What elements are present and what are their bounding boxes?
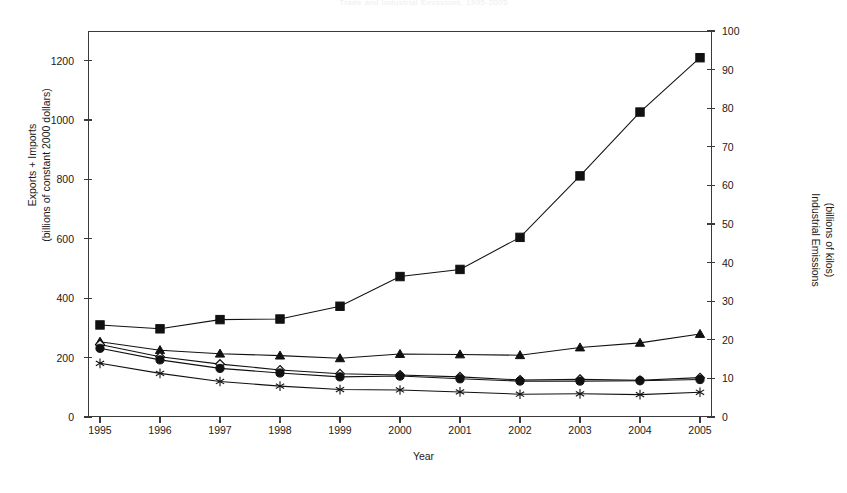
y-axis-left-title-line1: Exports + Imports (26, 0, 38, 330)
y-axis-right-tick-label: 90 (722, 64, 734, 76)
data-point-filled-circle (336, 373, 344, 381)
data-point-filled-circle (96, 344, 104, 352)
series-0 (96, 54, 704, 333)
y-axis-right-tick-label: 40 (722, 257, 734, 269)
y-axis-left-tick-label: 600 (0, 233, 74, 245)
data-point-filled-square (96, 321, 104, 329)
data-point-filled-triangle (455, 350, 464, 358)
data-point-filled-triangle (695, 329, 704, 337)
y-axis-left-tick-label: 1200 (0, 55, 74, 67)
data-point-filled-square (276, 315, 284, 323)
data-point-filled-circle (216, 364, 224, 372)
y-axis-right-tick-label: 50 (722, 218, 734, 230)
x-axis-tick-label: 1996 (148, 424, 171, 436)
chart-figure: Trade and Industrial Emissions, 1995-200… (0, 0, 847, 493)
y-axis-left-tick-label: 200 (0, 352, 74, 364)
y-axis-right-title-line1: Industrial Emissions (810, 140, 822, 340)
y-axis-right-tick-label: 80 (722, 102, 734, 114)
data-point-filled-circle (396, 372, 404, 380)
x-axis-title: Year (0, 450, 847, 462)
y-axis-left-tick-label: 0 (0, 411, 74, 423)
y-axis-right-tick-label: 0 (722, 411, 728, 423)
data-point-filled-circle (516, 377, 524, 385)
data-point-filled-square (456, 265, 464, 273)
x-axis-tick-label: 2002 (508, 424, 531, 436)
series-line (100, 58, 700, 329)
data-point-filled-square (696, 54, 704, 62)
data-point-filled-square (576, 172, 584, 180)
x-axis-tick-label: 2001 (448, 424, 471, 436)
data-point-filled-square (516, 233, 524, 241)
y-axis-left-tick-label: 1000 (0, 114, 74, 126)
data-series-layer (88, 31, 712, 417)
y-axis-right-tick-label: 10 (722, 372, 734, 384)
plot-area (88, 31, 712, 417)
y-axis-left-title-line2: (billions of constant 2000 dollars) (40, 0, 52, 330)
y-axis-right-tick-label: 60 (722, 179, 734, 191)
y-axis-right-tick-label: 20 (722, 334, 734, 346)
data-point-filled-circle (276, 369, 284, 377)
y-axis-right-title-line2: (billions of kilos) (824, 140, 836, 340)
data-point-filled-circle (636, 377, 644, 385)
x-axis-tick-label: 1999 (328, 424, 351, 436)
x-axis-tick-label: 2005 (688, 424, 711, 436)
y-axis-right-tick-label: 30 (722, 295, 734, 307)
x-axis-tick-label: 1995 (88, 424, 111, 436)
data-point-filled-square (216, 315, 224, 323)
data-point-filled-square (636, 108, 644, 116)
y-axis-left-tick-label: 400 (0, 292, 74, 304)
y-axis-right-tick-label: 100 (722, 25, 740, 37)
x-axis-tick-label: 1998 (268, 424, 291, 436)
x-axis-tick-label: 1997 (208, 424, 231, 436)
chart-title: Trade and Industrial Emissions, 1995-200… (0, 0, 847, 5)
x-axis-tick-label: 2004 (628, 424, 651, 436)
data-point-filled-circle (576, 377, 584, 385)
data-point-filled-square (156, 325, 164, 333)
x-axis-tick-label: 2003 (568, 424, 591, 436)
data-point-filled-triangle (395, 349, 404, 357)
data-point-filled-circle (696, 375, 704, 383)
data-point-filled-square (336, 302, 344, 310)
series-1 (95, 329, 704, 361)
data-point-filled-circle (456, 375, 464, 383)
y-axis-right-tick-label: 70 (722, 141, 734, 153)
data-point-filled-circle (156, 356, 164, 364)
data-point-filled-square (396, 272, 404, 280)
x-axis-tick-label: 2000 (388, 424, 411, 436)
y-axis-left-tick-label: 800 (0, 173, 74, 185)
